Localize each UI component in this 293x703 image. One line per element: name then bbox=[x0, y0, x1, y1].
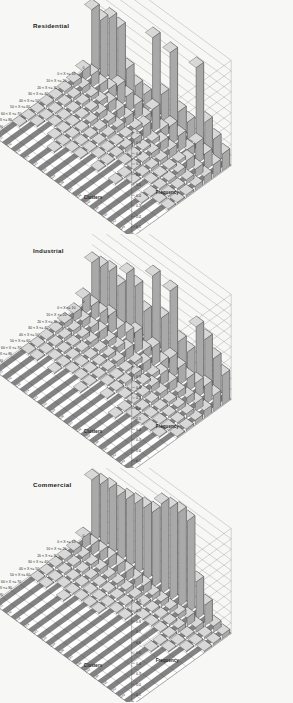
growth-tick-label: 10 < X <= 20 bbox=[46, 313, 66, 317]
growth-tick-label: 30 < X <= 40 bbox=[28, 92, 48, 96]
y-axis-title: Clusters bbox=[84, 195, 103, 200]
y-axis-title: Clusters bbox=[84, 429, 103, 434]
z-tick-label: 0.7 bbox=[136, 162, 141, 166]
z-tick-label: 0.7 bbox=[136, 630, 141, 634]
chart-panel-industrial: Industrial 0.00.10.20.30.40.50.60.70.80.… bbox=[0, 234, 293, 468]
z-tick-label: 0.8 bbox=[136, 386, 141, 390]
z-tick-label: 0.4 bbox=[136, 428, 141, 432]
growth-tick-label: 0 < X <= 10 bbox=[57, 540, 75, 544]
bar3d-plot-residential: 0.00.10.20.30.40.50.60.70.80.91.0Frequen… bbox=[0, 0, 293, 234]
growth-tick-label: 40 < X <= 50 bbox=[19, 333, 39, 337]
growth-tick-label: 80 < X <= 90 bbox=[0, 359, 3, 363]
z-tick-label: 1.0 bbox=[136, 365, 141, 369]
z-tick-label: 1.0 bbox=[136, 131, 141, 135]
growth-tick-label: 60 < X <= 70 bbox=[1, 580, 21, 584]
growth-tick-label: 0 bbox=[83, 300, 85, 304]
growth-tick-label: 20 < X <= 30 bbox=[37, 554, 57, 558]
growth-tick-label: 60 < X <= 70 bbox=[1, 112, 21, 116]
growth-tick-label: 20 < X <= 30 bbox=[37, 320, 57, 324]
z-tick-label: 0.4 bbox=[136, 662, 141, 666]
growth-tick-label: 50 < X <= 60 bbox=[10, 105, 30, 109]
z-tick-label: 0.7 bbox=[136, 396, 141, 400]
z-tick-label: 0.3 bbox=[136, 672, 141, 676]
growth-tick-label: 60 < X <= 70 bbox=[1, 346, 21, 350]
z-tick-label: 0.9 bbox=[136, 609, 141, 613]
z-tick-label: 0.8 bbox=[136, 620, 141, 624]
panel-title: Industrial bbox=[33, 247, 64, 254]
growth-tick-label: 40 < X <= 50 bbox=[19, 567, 39, 571]
growth-tick-label: 0 < X <= 10 bbox=[57, 306, 75, 310]
panel-title: Residential bbox=[33, 22, 69, 29]
z-tick-label: 0.2 bbox=[136, 449, 141, 453]
figure-root: Residential 0.00.10.20.30.40.50.60.70.80… bbox=[0, 0, 293, 703]
z-tick-label: 0.2 bbox=[136, 215, 141, 219]
z-tick-label: 1.0 bbox=[136, 599, 141, 603]
z-tick-label: 0.9 bbox=[136, 375, 141, 379]
z-axis-title: Frequency bbox=[156, 190, 180, 195]
z-tick-label: 0.6 bbox=[136, 641, 141, 645]
z-tick-label: 0.3 bbox=[136, 438, 141, 442]
z-tick-label: 0.5 bbox=[136, 417, 141, 421]
z-tick-label: 0.4 bbox=[136, 194, 141, 198]
z-tick-label: 0.3 bbox=[136, 204, 141, 208]
y-axis-title: Clusters bbox=[84, 663, 103, 668]
bar3d-plot-industrial: 0.00.10.20.30.40.50.60.70.80.91.0Frequen… bbox=[0, 234, 293, 468]
growth-tick-label: 20 < X <= 30 bbox=[37, 86, 57, 90]
growth-tick-label: 0 bbox=[83, 534, 85, 538]
bar3d-plot-commercial: 0.00.10.20.30.40.50.60.70.80.91.0Frequen… bbox=[0, 468, 293, 702]
growth-tick-label: 0 bbox=[83, 66, 85, 70]
growth-tick-label: 30 < X <= 40 bbox=[28, 560, 48, 564]
growth-tick-label: 80 < X <= 90 bbox=[0, 593, 3, 597]
z-tick-label: 0.1 bbox=[136, 693, 141, 697]
z-tick-label: 0.5 bbox=[136, 183, 141, 187]
z-tick-label: 0.8 bbox=[136, 152, 141, 156]
chart-panel-residential: Residential 0.00.10.20.30.40.50.60.70.80… bbox=[0, 0, 293, 234]
z-tick-label: 0.1 bbox=[136, 225, 141, 229]
growth-tick-label: 50 < X <= 60 bbox=[10, 573, 30, 577]
panel-title: Commercial bbox=[33, 481, 71, 488]
growth-tick-label: 0 < X <= 10 bbox=[57, 72, 75, 76]
z-tick-label: 0.5 bbox=[136, 651, 141, 655]
growth-tick-label: 70 < X <= 80 bbox=[0, 586, 12, 590]
z-axis-title: Frequency bbox=[156, 658, 180, 663]
z-tick-label: 0.2 bbox=[136, 683, 141, 687]
growth-tick-label: 80 < X <= 90 bbox=[0, 125, 3, 129]
growth-tick-label: 40 < X <= 50 bbox=[19, 99, 39, 103]
growth-tick-label: 30 < X <= 40 bbox=[28, 326, 48, 330]
z-tick-label: 0.6 bbox=[136, 173, 141, 177]
growth-tick-label: 70 < X <= 80 bbox=[0, 352, 12, 356]
growth-tick-label: 70 < X <= 80 bbox=[0, 118, 12, 122]
chart-panel-commercial: Commercial 0.00.10.20.30.40.50.60.70.80.… bbox=[0, 468, 293, 702]
growth-tick-label: 10 < X <= 20 bbox=[46, 547, 66, 551]
growth-tick-label: 50 < X <= 60 bbox=[10, 339, 30, 343]
z-tick-label: 0.6 bbox=[136, 407, 141, 411]
z-axis-title: Frequency bbox=[156, 424, 180, 429]
z-tick-label: 0.1 bbox=[136, 459, 141, 463]
z-tick-label: 0.9 bbox=[136, 141, 141, 145]
growth-tick-label: 10 < X <= 20 bbox=[46, 79, 66, 83]
